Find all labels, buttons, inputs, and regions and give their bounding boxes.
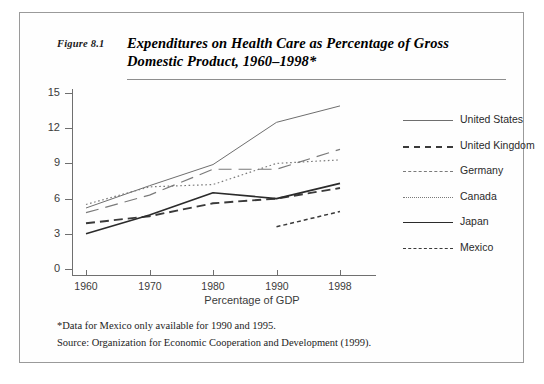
legend-label: Germany <box>460 164 503 176</box>
y-axis-label: 9 <box>38 156 60 168</box>
legend-line-icon-canada <box>403 197 453 201</box>
legend-line-icon-united-states <box>403 120 453 124</box>
chart-legend: United StatesUnited KingdomGermanyCanada… <box>403 111 523 264</box>
figure-card: Figure 8.1 Expenditures on Health Care a… <box>19 12 524 363</box>
legend-item-mexico[interactable]: Mexico <box>403 239 523 265</box>
x-axis-line <box>72 275 376 276</box>
y-axis-tick <box>65 269 72 270</box>
y-axis-label: 6 <box>38 192 60 204</box>
legend-label: United Kingdom <box>460 139 535 151</box>
y-axis-tick <box>65 163 72 164</box>
legend-label: Japan <box>460 215 489 227</box>
legend-item-japan[interactable]: Japan <box>403 213 523 239</box>
x-axis-label: 1960 <box>64 280 108 292</box>
y-axis-tick <box>65 128 72 129</box>
y-axis-label: 3 <box>38 227 60 239</box>
y-axis-label: 12 <box>38 121 60 133</box>
y-axis-label: 0 <box>38 262 60 274</box>
y-axis-line <box>72 89 73 275</box>
legend-label: Canada <box>460 190 497 202</box>
x-axis-title: Percentage of GDP <box>132 294 372 306</box>
series-line-mexico <box>277 212 341 227</box>
x-axis-tick <box>86 270 87 276</box>
series-line-japan <box>86 183 340 233</box>
footnote-mexico: *Data for Mexico only available for 1990… <box>57 320 276 331</box>
y-axis-tick <box>65 199 72 200</box>
x-axis-tick <box>277 270 278 276</box>
legend-item-germany[interactable]: Germany <box>403 162 523 188</box>
y-axis-label: 15 <box>38 86 60 98</box>
x-axis-label: 1970 <box>128 280 172 292</box>
legend-item-united-kingdom[interactable]: United Kingdom <box>403 137 523 163</box>
x-axis-tick <box>213 270 214 276</box>
x-axis-label: 1998 <box>318 280 362 292</box>
x-axis-tick <box>340 270 341 276</box>
legend-item-canada[interactable]: Canada <box>403 188 523 214</box>
legend-label: Mexico <box>460 241 493 253</box>
legend-line-icon-united-kingdom <box>403 146 453 151</box>
x-axis-label: 1990 <box>255 280 299 292</box>
legend-item-united-states[interactable]: United States <box>403 111 523 137</box>
legend-line-icon-mexico <box>403 248 453 252</box>
source-note: Source: Organization for Economic Cooper… <box>57 337 371 348</box>
legend-line-icon-germany <box>403 171 453 175</box>
legend-line-icon-japan <box>403 222 453 226</box>
legend-label: United States <box>460 113 523 125</box>
x-axis-label: 1980 <box>191 280 235 292</box>
y-axis-tick <box>65 234 72 235</box>
series-line-canada <box>86 160 340 205</box>
x-axis-tick <box>150 270 151 276</box>
y-axis-tick <box>65 93 72 94</box>
